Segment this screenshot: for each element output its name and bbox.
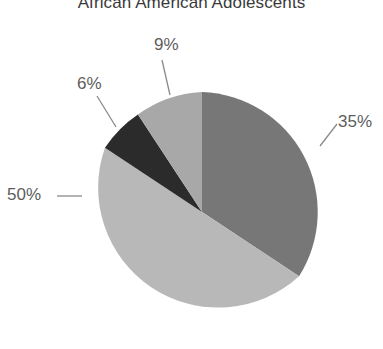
leader-line-9 bbox=[162, 60, 170, 95]
pie-label-35: 35% bbox=[338, 112, 372, 132]
leader-line-35 bbox=[320, 124, 337, 146]
pie-label-9: 9% bbox=[154, 35, 179, 55]
pie-chart-figure: African American Adolescents 35% 50% 9% … bbox=[0, 0, 383, 349]
pie-chart-graphic bbox=[0, 0, 383, 349]
pie-label-50: 50% bbox=[7, 185, 41, 205]
leader-line-6 bbox=[97, 96, 116, 127]
pie-label-6: 6% bbox=[77, 74, 102, 94]
